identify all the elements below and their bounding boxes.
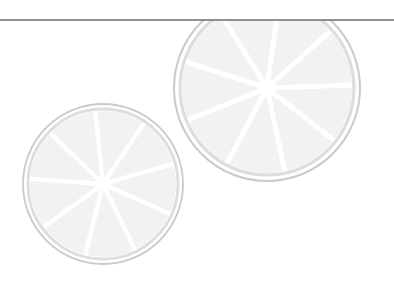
citrus-illustration xyxy=(0,0,394,297)
pith-core-small xyxy=(96,177,110,191)
artboard-canvas: Citrus Slice Decorative Graphic xyxy=(0,0,394,297)
pith-core-large xyxy=(258,79,276,97)
citrus-slice-small xyxy=(23,104,183,264)
segment-divider xyxy=(267,85,354,88)
